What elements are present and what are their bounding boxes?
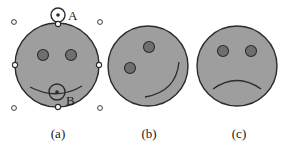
handle-right[interactable] (96, 62, 101, 67)
corner-handle-top-right[interactable] (98, 20, 103, 25)
caption-row: (a) (b) (c) (0, 126, 286, 151)
eye-right-c[interactable] (246, 46, 257, 57)
caption-a: (a) (28, 126, 88, 142)
caption-b: (b) (119, 126, 179, 142)
corner-handle-top-left[interactable] (12, 20, 17, 25)
marker-label-b: B (66, 93, 75, 108)
panel-b (108, 26, 188, 106)
panel-c (197, 26, 277, 106)
eye-upper-b[interactable] (144, 42, 155, 53)
mouth-control-dot-icon (55, 90, 59, 94)
eye-left-a[interactable] (38, 50, 49, 61)
panel-a: A B (12, 8, 103, 110)
eye-left-c[interactable] (218, 46, 229, 57)
handle-left[interactable] (12, 62, 17, 67)
eye-right-a[interactable] (66, 50, 77, 61)
rotation-pivot-dot-icon (56, 13, 60, 17)
eye-lower-b[interactable] (125, 63, 136, 74)
corner-handle-bottom-right[interactable] (98, 106, 103, 111)
corner-handle-bottom-left[interactable] (12, 106, 17, 111)
handle-bottom[interactable] (55, 104, 60, 109)
marker-label-a: A (68, 8, 78, 23)
face-circle-b[interactable] (108, 26, 188, 106)
handle-top[interactable] (55, 21, 60, 26)
caption-c: (c) (209, 126, 269, 142)
face-circle-c[interactable] (197, 26, 277, 106)
face-circle-a[interactable] (15, 23, 99, 107)
